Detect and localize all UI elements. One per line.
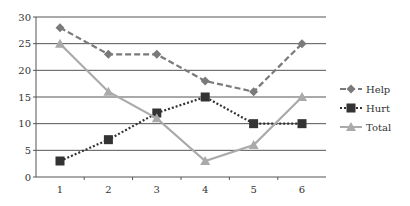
x-tick-label: 2 xyxy=(105,184,111,195)
diamond-marker xyxy=(347,85,356,94)
series-lines xyxy=(55,23,307,165)
diamond-marker xyxy=(56,23,65,32)
y-tick-label: 15 xyxy=(18,92,31,103)
square-marker xyxy=(249,119,258,128)
y-tick-label: 20 xyxy=(18,65,31,76)
square-marker xyxy=(298,119,307,128)
y-tick-label: 25 xyxy=(18,38,31,49)
x-tick-label: 3 xyxy=(154,184,160,195)
diamond-marker xyxy=(104,50,113,59)
diamond-marker xyxy=(152,50,161,59)
legend-label: Total xyxy=(366,122,391,133)
gridlines xyxy=(36,17,326,150)
y-axis-ticks: 051015202530 xyxy=(18,12,36,183)
square-marker xyxy=(347,104,356,113)
legend: HelpHurtTotal xyxy=(340,84,391,133)
legend-label: Hurt xyxy=(366,103,390,114)
square-marker xyxy=(56,157,65,166)
square-marker xyxy=(201,93,210,102)
line-chart: 051015202530 123456 HelpHurtTotal xyxy=(0,0,410,206)
series-line xyxy=(60,44,302,161)
square-marker xyxy=(104,135,113,144)
x-tick-label: 1 xyxy=(57,184,63,195)
series-help xyxy=(56,23,307,96)
y-tick-label: 5 xyxy=(25,145,31,156)
legend-label: Help xyxy=(366,84,390,95)
legend-item-hurt: Hurt xyxy=(340,103,390,114)
y-tick-label: 10 xyxy=(18,118,31,129)
legend-item-help: Help xyxy=(340,84,390,95)
x-axis-ticks: 123456 xyxy=(57,177,305,195)
x-tick-label: 6 xyxy=(299,184,305,195)
diamond-marker xyxy=(201,77,210,86)
x-tick-label: 5 xyxy=(250,184,256,195)
series-line xyxy=(60,97,302,161)
y-tick-label: 30 xyxy=(18,12,31,23)
series-line xyxy=(60,28,302,92)
y-tick-label: 0 xyxy=(25,172,31,183)
legend-item-total: Total xyxy=(340,122,391,133)
x-tick-label: 4 xyxy=(202,184,208,195)
